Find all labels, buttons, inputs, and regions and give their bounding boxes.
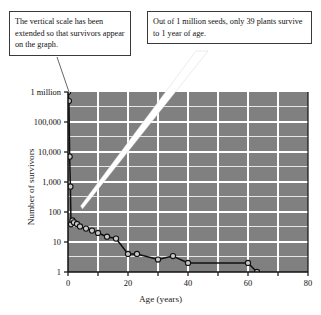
data-point: [89, 228, 94, 233]
callout-survival-rate-text: Out of 1 million seeds, only 39 plants s…: [153, 16, 306, 39]
data-point: [113, 236, 118, 241]
data-point: [77, 224, 82, 229]
y-tick-label: 1: [0, 268, 61, 277]
y-tick-label: 1 million: [0, 88, 61, 97]
data-point: [83, 226, 88, 231]
data-point: [125, 251, 130, 256]
data-point: [104, 234, 109, 239]
callout-survival-rate: Out of 1 million seeds, only 39 plants s…: [147, 11, 312, 44]
callout-vertical-scale: The vertical scale has been extended so …: [9, 11, 131, 56]
x-tick-label: 80: [304, 279, 312, 288]
data-point: [170, 253, 175, 258]
x-tick-label: 0: [66, 279, 70, 288]
data-point: [66, 98, 71, 103]
data-point: [185, 260, 190, 265]
data-point: [134, 251, 139, 256]
data-point: [95, 230, 100, 235]
figure-caption: [6, 308, 321, 315]
x-axis-title: Age (years): [0, 294, 321, 304]
x-tick-label: 40: [184, 279, 192, 288]
figure-root: The vertical scale has been extended so …: [0, 0, 321, 315]
callout-vertical-scale-text: The vertical scale has been extended so …: [15, 16, 125, 51]
y-axis-title: Number of survivors: [26, 117, 36, 257]
x-tick-label: 60: [244, 279, 252, 288]
x-tick-label: 20: [124, 279, 132, 288]
data-point: [245, 260, 250, 265]
data-point: [155, 257, 160, 262]
